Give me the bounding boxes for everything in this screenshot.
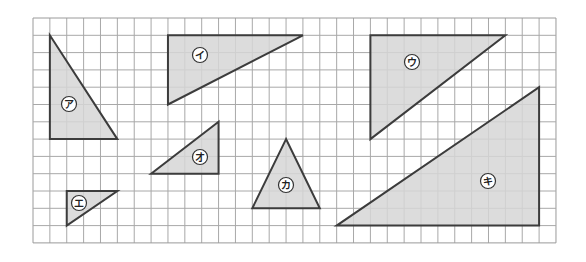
label-text: エ (74, 198, 84, 209)
label-text: カ (281, 180, 291, 191)
label-ka: カ (279, 178, 294, 193)
triangles (50, 35, 539, 225)
label-text: ウ (407, 57, 417, 68)
label-u: ウ (405, 55, 420, 70)
label-text: ア (64, 99, 74, 110)
label-text: オ (195, 152, 205, 163)
label-text: キ (483, 176, 493, 187)
grid-diagram: アイウエオカキ (0, 0, 586, 262)
label-ki: キ (481, 174, 496, 189)
label-e: エ (72, 196, 87, 211)
label-o: オ (193, 150, 208, 165)
label-i: イ (193, 48, 208, 63)
label-text: イ (195, 50, 205, 61)
label-a: ア (62, 97, 77, 112)
